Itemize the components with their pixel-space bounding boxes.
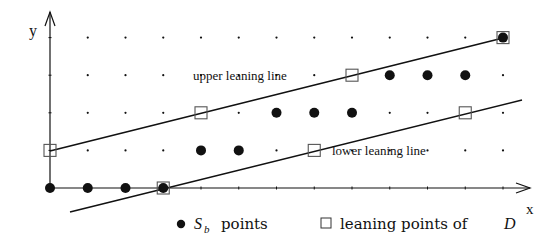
lattice-dot xyxy=(124,112,126,114)
filled-dot-legend-icon xyxy=(177,220,185,228)
legend-leaning-var: D xyxy=(503,215,516,232)
lattice-dot xyxy=(238,112,240,114)
sb-point xyxy=(121,183,131,193)
lattice-dot xyxy=(200,37,202,39)
sb-point xyxy=(498,33,508,43)
legend-sb-text: points xyxy=(221,215,268,233)
lattice-dot xyxy=(162,74,164,76)
lattice-dot xyxy=(275,37,277,39)
lattice-dot xyxy=(87,74,89,76)
sb-point xyxy=(460,70,470,80)
lattice-dot xyxy=(502,74,504,76)
upper-leaning-line-label: upper leaning line xyxy=(193,68,287,83)
lattice-dot xyxy=(426,37,428,39)
lattice-dot xyxy=(313,74,315,76)
legend-leaning-text: leaning points of xyxy=(340,215,469,233)
lattice-dot xyxy=(87,149,89,151)
lattice-dot xyxy=(124,37,126,39)
sb-points xyxy=(45,33,508,193)
sb-point xyxy=(196,145,206,155)
lattice-dot xyxy=(426,149,428,151)
lattice-dot xyxy=(162,37,164,39)
lattice-dot xyxy=(464,37,466,39)
sb-point xyxy=(272,108,282,118)
sb-point xyxy=(347,108,357,118)
lower-leaning-line-label: lower leaning line xyxy=(332,143,426,158)
lower-leaning-line xyxy=(70,100,522,212)
lattice-dot xyxy=(275,149,277,151)
axes: x y xyxy=(29,12,534,217)
lattice-dot xyxy=(238,37,240,39)
lattice-dot xyxy=(389,112,391,114)
sb-point xyxy=(423,70,433,80)
diagram-svg: x y upper leaning line lower leaning lin… xyxy=(0,0,557,248)
sb-point xyxy=(158,183,168,193)
lattice-dot xyxy=(389,37,391,39)
lattice-dot xyxy=(464,149,466,151)
leaning-lines-diagram: x y upper leaning line lower leaning lin… xyxy=(0,0,557,248)
lattice-dot xyxy=(162,112,164,114)
square-legend-icon xyxy=(321,218,331,228)
lattice-dot xyxy=(313,37,315,39)
lattice-dot xyxy=(426,112,428,114)
lattice-dot xyxy=(87,112,89,114)
lattice-dot xyxy=(87,37,89,39)
lattice-dot xyxy=(124,149,126,151)
legend-sb-symbol: S xyxy=(194,215,202,232)
x-axis-label: x xyxy=(526,201,534,217)
lattice-dot xyxy=(162,149,164,151)
legend: S b points leaning points of D xyxy=(177,215,516,235)
lattice-dot xyxy=(124,74,126,76)
sb-point xyxy=(309,108,319,118)
sb-point xyxy=(45,183,55,193)
lattice-dot xyxy=(502,112,504,114)
legend-sb-subscript: b xyxy=(204,223,210,235)
sb-point xyxy=(234,145,244,155)
sb-point xyxy=(385,70,395,80)
y-axis-label: y xyxy=(29,22,37,40)
leaning-lines: upper leaning line lower leaning line xyxy=(50,38,522,212)
lattice-dot xyxy=(351,37,353,39)
lattice-dot xyxy=(502,149,504,151)
sb-point xyxy=(83,183,93,193)
upper-leaning-line xyxy=(50,38,503,151)
